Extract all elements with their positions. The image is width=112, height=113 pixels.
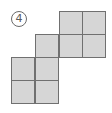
net-square [11, 57, 35, 81]
net-square [11, 80, 35, 104]
net-square [35, 80, 59, 104]
net-square [35, 57, 59, 81]
net-square [35, 34, 59, 58]
net-square [59, 34, 83, 58]
net-square [59, 11, 83, 35]
option-number-label: 4 [11, 11, 27, 27]
net-square [82, 11, 106, 35]
net-square [82, 34, 106, 58]
